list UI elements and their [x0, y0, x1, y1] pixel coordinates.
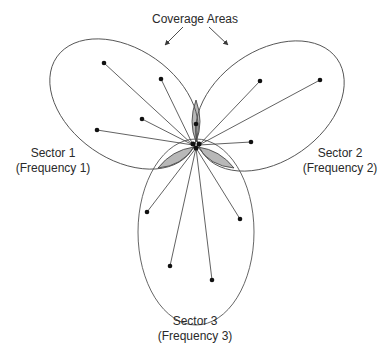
sector-1-label: Sector 1 (Frequency 1): [8, 146, 98, 176]
user-dot: [145, 210, 150, 215]
user-links: [97, 63, 320, 280]
user-dot: [249, 140, 254, 145]
sector-2-frequency: (Frequency 2): [295, 161, 385, 176]
user-dot: [140, 117, 145, 122]
link-line: [161, 79, 193, 145]
sector-2-name: Sector 2: [295, 146, 385, 161]
antenna-sector-3-dot: [194, 146, 199, 151]
user-dot: [102, 61, 107, 66]
user-dot: [159, 77, 164, 82]
sector-3-label: Sector 3 (Frequency 3): [150, 314, 240, 344]
user-dot: [238, 217, 243, 222]
user-dot: [194, 122, 199, 127]
sector-2-label: Sector 2 (Frequency 2): [295, 146, 385, 176]
antenna-sector-1-dot: [191, 142, 196, 147]
arrow-to-sector-1-icon: [165, 27, 183, 45]
user-dot: [168, 264, 173, 269]
sector-3-name: Sector 3: [150, 314, 240, 329]
user-dot: [258, 79, 263, 84]
link-line: [199, 81, 260, 145]
user-dot: [95, 128, 100, 133]
link-line: [196, 148, 212, 280]
link-line: [170, 148, 196, 266]
title-arrows: [165, 27, 228, 45]
diagram-title: Coverage Areas: [145, 12, 245, 27]
user-dot: [318, 78, 323, 83]
link-line: [199, 142, 251, 145]
sector-1-frequency: (Frequency 1): [8, 161, 98, 176]
sector-1-name: Sector 1: [8, 146, 98, 161]
arrow-to-sector-2-icon: [209, 27, 228, 45]
link-line: [104, 63, 193, 145]
user-dot: [210, 278, 215, 283]
antenna-sector-2-dot: [197, 142, 202, 147]
sector-3-frequency: (Frequency 3): [150, 329, 240, 344]
link-line: [199, 80, 320, 145]
sector-3-coverage: [138, 139, 254, 325]
